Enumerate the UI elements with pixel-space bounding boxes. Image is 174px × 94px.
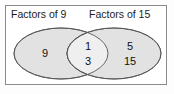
venn-diagram-screenshot: Factors of 9 Factors of 15 9 1 3 5 15 <box>0 0 174 94</box>
venn-graphic: 9 1 3 5 15 <box>0 0 174 94</box>
member-intersection-1: 3 <box>85 55 91 67</box>
member-right-only-0: 5 <box>127 40 133 52</box>
member-left-only-0: 9 <box>42 47 48 59</box>
member-intersection-0: 1 <box>85 40 91 52</box>
member-right-only-1: 15 <box>124 55 136 67</box>
